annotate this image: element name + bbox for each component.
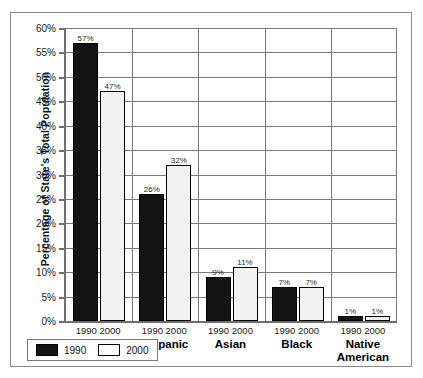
plot-right-edge — [396, 28, 397, 321]
bar-native-american-1990: 1% — [338, 316, 363, 321]
x-axis-year-labels: 1990 2000 — [330, 325, 396, 336]
bar-value-label: 1% — [345, 307, 357, 316]
bar-value-label: 47% — [105, 82, 121, 91]
bar-hispanic-2000: 32% — [166, 165, 191, 321]
x-axis-year-labels: 1990 2000 — [197, 325, 263, 336]
bar-white-1990: 57% — [73, 43, 98, 321]
y-axis-tick — [59, 126, 66, 128]
y-axis-tick-label: 25% — [36, 193, 56, 204]
y-axis-tick-label: 30% — [36, 169, 56, 180]
bar-value-label: 26% — [144, 185, 160, 194]
y-axis-tick-label: 35% — [36, 145, 56, 156]
y-axis-tick — [59, 175, 66, 177]
legend-swatch-1990 — [36, 344, 58, 356]
gridline — [66, 28, 397, 29]
y-axis-tick — [59, 321, 66, 323]
chart-legend: 19902000 — [27, 339, 158, 361]
y-axis-tick — [59, 248, 66, 250]
bar-hispanic-1990: 26% — [139, 194, 164, 321]
bar-asian-2000: 11% — [233, 267, 258, 321]
x-axis-year-labels: 1990 2000 — [264, 325, 330, 336]
bar-value-label: 11% — [237, 258, 252, 267]
bar-black-1990: 7% — [272, 287, 297, 321]
y-axis-tick-label: 60% — [36, 23, 56, 34]
bar-value-label: 32% — [171, 156, 187, 165]
legend-label: 1990 — [64, 345, 86, 356]
y-axis-tick — [59, 28, 66, 30]
bar-value-label: 1% — [372, 307, 384, 316]
y-axis-tick — [59, 297, 66, 299]
bar-black-2000: 7% — [299, 287, 324, 321]
y-axis-tick — [59, 272, 66, 274]
gridline — [66, 52, 397, 53]
bar-value-label: 57% — [78, 34, 94, 43]
x-axis-group-asian: 1990 2000Asian — [197, 325, 263, 351]
y-axis-tick-label: 45% — [36, 96, 56, 107]
y-axis-tick — [59, 150, 66, 152]
y-axis-tick — [59, 223, 66, 225]
x-axis-category-label: Black — [264, 338, 330, 351]
y-axis-tick-label: 50% — [36, 71, 56, 82]
y-axis-tick-label: 15% — [36, 242, 56, 253]
y-axis-tick — [59, 52, 66, 54]
y-axis-tick — [59, 77, 66, 79]
legend-label: 2000 — [126, 345, 148, 356]
y-axis-tick-label: 10% — [36, 267, 56, 278]
legend-item-1990[interactable]: 1990 — [36, 344, 86, 356]
bar-asian-1990: 9% — [206, 277, 231, 321]
chart-figure: Percentage of State's Total Population 6… — [10, 12, 412, 367]
bar-value-label: 7% — [305, 278, 317, 287]
x-axis-group-black: 1990 2000Black — [264, 325, 330, 351]
bar-value-label: 7% — [278, 278, 290, 287]
y-axis-tick-label: 5% — [42, 291, 56, 302]
y-axis-tick-label: 55% — [36, 47, 56, 58]
y-axis-tick — [59, 199, 66, 201]
y-axis-tick-label: 40% — [36, 120, 56, 131]
group-separator — [132, 28, 133, 321]
x-axis-category-label: NativeAmerican — [330, 338, 396, 363]
x-axis-year-labels: 1990 2000 — [65, 325, 131, 336]
y-axis-tick-label: 0% — [42, 316, 56, 327]
group-separator — [265, 28, 266, 321]
legend-swatch-2000 — [98, 344, 120, 356]
x-axis-category-label: Asian — [197, 338, 263, 351]
x-axis-year-labels: 1990 2000 — [131, 325, 197, 336]
group-separator — [198, 28, 199, 321]
bar-native-american-2000: 1% — [365, 316, 390, 321]
bar-white-2000: 47% — [100, 91, 125, 321]
y-axis-tick-label: 20% — [36, 218, 56, 229]
x-axis-group-native-american: 1990 2000NativeAmerican — [330, 325, 396, 363]
group-separator — [331, 28, 332, 321]
plot-area: 60%55%50%45%40%35%30%25%20%15%10%5%0%57%… — [64, 28, 397, 323]
legend-item-2000[interactable]: 2000 — [98, 344, 148, 356]
y-axis-tick — [59, 101, 66, 103]
gridline — [66, 77, 397, 78]
bar-value-label: 9% — [212, 268, 224, 277]
plot-inner: 60%55%50%45%40%35%30%25%20%15%10%5%0%57%… — [66, 28, 397, 321]
